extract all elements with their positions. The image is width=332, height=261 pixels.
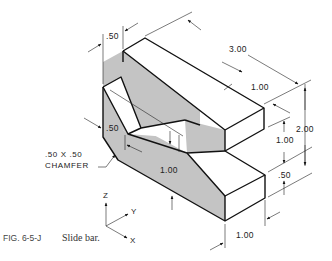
dim-upper-step-height: 1.00 bbox=[276, 135, 294, 145]
dim-bottom-depth: 1.00 bbox=[236, 230, 254, 240]
x-axis-label: X bbox=[130, 236, 136, 245]
x-axis-arrow-icon bbox=[106, 226, 127, 238]
dim-overall-length: 3.00 bbox=[229, 44, 247, 54]
chamfer-note-label: CHAMFER bbox=[45, 161, 89, 170]
part-body bbox=[103, 38, 265, 221]
dim-upper-block-depth: 1.00 bbox=[251, 82, 269, 92]
y-axis-arrow-icon bbox=[106, 214, 128, 226]
dim-left-step-height: .50 bbox=[106, 123, 119, 133]
dim-top-step-width: .50 bbox=[106, 31, 119, 41]
dim-overall-height: 2.00 bbox=[296, 124, 314, 134]
axis-triad: Z Y X bbox=[103, 191, 137, 245]
z-axis-label: Z bbox=[103, 191, 108, 200]
y-axis-label: Y bbox=[131, 207, 137, 216]
chamfer-note-size: .50 X .50 bbox=[45, 150, 82, 159]
dim-front-face-length: 1.00 bbox=[160, 165, 178, 175]
figure-title: Slide bar. bbox=[62, 232, 100, 243]
isometric-part-svg: .50 3.00 1.00 2.00 1.00 .50 .50 1.00 1.0… bbox=[0, 0, 332, 261]
figure-number: FIG. 6-5-J bbox=[3, 233, 41, 243]
dim-lower-step-height: .50 bbox=[278, 170, 291, 180]
slide-bar-drawing: .50 3.00 1.00 2.00 1.00 .50 .50 1.00 1.0… bbox=[0, 0, 332, 261]
